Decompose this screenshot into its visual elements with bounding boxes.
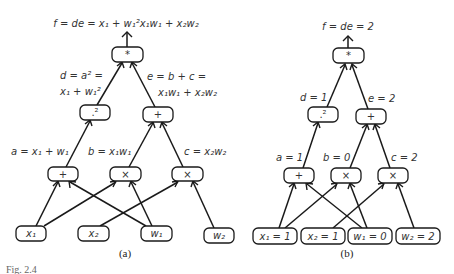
edge-a-mulc-to-add (162, 123, 183, 167)
panel-b-output-label: f = de = 2 (322, 21, 374, 32)
figure-caption: Fig. 2.4 (6, 264, 37, 274)
panel-b-node-w1: w₁ = 0 (348, 228, 392, 244)
panel-a-label-e-line1: e = b + c = (147, 71, 206, 82)
edge-a-x2-to-mulc (100, 182, 178, 226)
node-label: + (367, 111, 375, 122)
node-label: + (295, 170, 303, 181)
edge-b-mulb-to-add (350, 125, 367, 168)
node-label: + (154, 109, 162, 120)
panel-a-node-mul-top: * (112, 47, 143, 62)
panel-b-node-mul-c: × (378, 168, 408, 183)
edge-b-square-to-mul (327, 65, 345, 107)
panel-a-label-a: a = x₁ + w₁ (11, 146, 69, 157)
panel-b-node-mul-b: × (331, 168, 361, 183)
node-label: x₂ = 1 (306, 231, 338, 242)
node-label: w₁ = 0 (353, 231, 386, 242)
panel-a-label-d-line2: x₁ + w₁² (59, 86, 101, 97)
panel-b-caption: (b) (341, 247, 354, 260)
panel-b-label-e: e = 2 (368, 93, 395, 104)
panel-b-label-d: d = 1 (300, 92, 327, 103)
edge-a-adda-to-square (66, 121, 90, 167)
edge-b-w1-to-adda (307, 184, 362, 228)
panel-a-node-mul-b: × (110, 167, 141, 181)
node-label: .² (319, 109, 326, 120)
panel-b-label-c: c = 2 (391, 152, 418, 163)
panel-b-node-mul-top: * (333, 48, 364, 63)
panel-a-node-add-a: + (48, 167, 78, 181)
panel-a-node-mul-c: × (172, 167, 203, 181)
panel-a-node-x2: x₂ (78, 226, 109, 241)
node-label: x₁ (25, 228, 36, 239)
edge-b-adda-to-square (303, 123, 318, 168)
panel-b-node-x1: x₁ = 1 (253, 228, 297, 244)
panel-a-node-square: .² (80, 105, 110, 120)
panel-b: f = de = 2 d = 1 e = 2 a = 1 b = 0 c = 2… (253, 21, 440, 260)
panel-b-label-b: b = 0 (323, 152, 350, 163)
node-label: * (125, 49, 130, 60)
node-label: x₁ = 1 (258, 231, 290, 242)
node-label: w₂ (213, 230, 225, 241)
panel-b-node-square: .² (308, 107, 338, 122)
panel-a-node-add-e: + (143, 107, 173, 122)
panel-b-edges (279, 36, 414, 228)
edge-b-x2-to-mulc (333, 184, 384, 228)
panel-a-node-x1: x₁ (16, 226, 46, 241)
computation-graph-figure: f = de = x₁ + w₁²x₁w₁ + x₂w₂ d = a² = x₁… (0, 0, 454, 274)
panel-a-label-d-line1: d = a² = (60, 70, 103, 81)
panel-b-node-add-a: + (284, 168, 314, 183)
panel-b-label-a: a = 1 (276, 152, 303, 163)
edge-a-w2-to-mulc (193, 182, 214, 228)
node-label: w₂ = 2 (401, 231, 434, 242)
panel-a-caption: (a) (119, 247, 132, 260)
panel-a-label-e-line2: x₁w₁ + x₂w₂ (157, 87, 217, 98)
panel-a-output-label: f = de = x₁ + w₁²x₁w₁ + x₂w₂ (53, 18, 198, 29)
edge-b-mulc-to-add (375, 125, 390, 168)
node-label: × (342, 170, 350, 181)
panel-a-node-w2: w₂ (204, 228, 234, 243)
node-label: × (183, 169, 191, 180)
node-label: .² (91, 107, 98, 118)
node-label: w₁ (150, 228, 162, 239)
panel-b-node-x2: x₂ = 1 (301, 228, 345, 244)
edge-b-w2-to-mulc (398, 184, 414, 228)
node-label: x₂ (88, 228, 99, 239)
panel-a-label-b: b = x₁w₁ (88, 146, 131, 157)
panel-b-node-w2: w₂ = 2 (396, 228, 440, 244)
panel-a: f = de = x₁ + w₁²x₁w₁ + x₂w₂ d = a² = x₁… (11, 18, 234, 260)
edge-a-mulb-to-add (129, 123, 153, 167)
panel-b-node-add-e: + (356, 109, 386, 124)
node-label: + (59, 169, 67, 180)
node-label: × (389, 170, 397, 181)
edge-b-add-to-mul (352, 65, 368, 109)
node-label: * (346, 50, 351, 61)
panel-a-node-w1: w₁ (141, 226, 172, 241)
node-label: × (121, 169, 129, 180)
panel-a-label-c: c = x₂w₂ (184, 146, 226, 157)
edge-b-x1-to-mulb (285, 184, 337, 228)
edge-a-add-to-mul (132, 63, 155, 107)
